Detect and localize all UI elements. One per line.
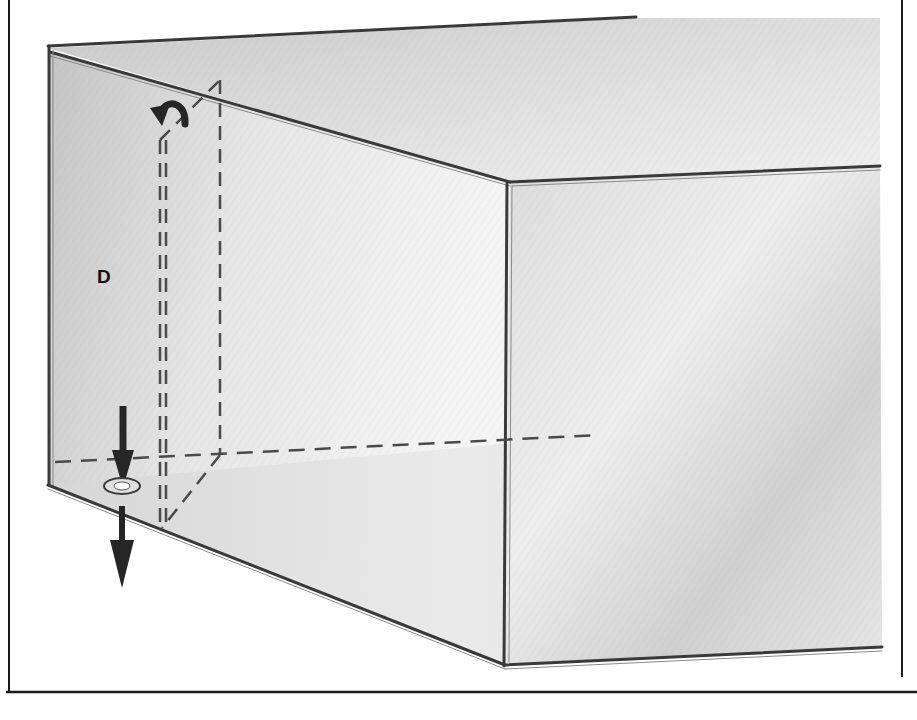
screw-hole-icon: [104, 478, 140, 494]
panel-label-d: D: [97, 266, 111, 288]
illustration-canvas: D: [0, 0, 917, 720]
box-diagram: [0, 0, 917, 720]
